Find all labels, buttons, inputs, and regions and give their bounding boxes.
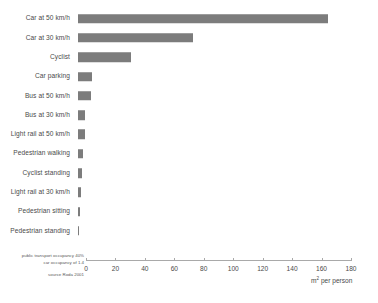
x-axis-tick [115, 258, 116, 262]
x-axis-tick-label: 20 [112, 266, 119, 273]
x-axis-tick-label: 60 [171, 266, 178, 273]
bar-track [78, 48, 378, 67]
bar-row: Pedestrian sitting [0, 202, 378, 221]
bar-category-label: Pedestrian standing [0, 228, 78, 235]
x-axis-tick [145, 258, 146, 262]
x-axis-tick-label: 160 [316, 266, 327, 273]
footnote-assumption-line-1: public transport occupancy 40% [4, 253, 84, 260]
bar [78, 72, 92, 82]
x-axis-tick [174, 258, 175, 262]
bar-category-label: Bus at 50 km/h [0, 93, 78, 100]
x-axis-tick-label: 80 [200, 266, 207, 273]
x-axis-tick [86, 258, 87, 262]
bar-row: Pedestrian standing [0, 221, 378, 240]
bar-category-label: Cyclist [0, 54, 78, 61]
bar-track [78, 105, 378, 124]
bar-category-label: Car at 30 km/h [0, 35, 78, 42]
bar-track [78, 86, 378, 105]
bar [78, 14, 328, 24]
bar-row: Bus at 50 km/h [0, 86, 378, 105]
bar [78, 91, 91, 101]
bar-track [78, 9, 378, 28]
bar-row: Light rail at 30 km/h [0, 183, 378, 202]
x-axis-tick [204, 258, 205, 262]
bar-chart: Car at 50 km/hCar at 30 km/hCyclistCar p… [0, 0, 378, 303]
x-axis-tick-label: 180 [345, 266, 356, 273]
bar-row: Car at 50 km/h [0, 9, 378, 28]
x-axis-tick-label: 100 [228, 266, 239, 273]
bar [78, 33, 193, 43]
bar-category-label: Light rail at 50 km/h [0, 131, 78, 138]
bar-row: Cyclist standing [0, 163, 378, 182]
footnote-source: source Roda 2001 [4, 273, 84, 277]
bar-category-label: Cyclist standing [0, 170, 78, 177]
x-axis-tick-label: 40 [141, 266, 148, 273]
bar [78, 149, 83, 159]
x-axis-tick-label: 0 [84, 266, 88, 273]
x-axis-tick [351, 258, 352, 262]
bar-track [78, 144, 378, 163]
bar-row: Pedestrian walking [0, 144, 378, 163]
bar-category-label: Car parking [0, 73, 78, 80]
x-axis-tick-label: 120 [257, 266, 268, 273]
bar [78, 52, 131, 62]
bar-track [78, 163, 378, 182]
x-axis: 020406080100120140160180 [86, 260, 351, 261]
bar [78, 226, 79, 236]
bar-row: Car at 30 km/h [0, 28, 378, 47]
x-axis-tick [322, 258, 323, 262]
bar-category-label: Light rail at 30 km/h [0, 189, 78, 196]
bar [78, 207, 80, 217]
x-axis-unit-suffix: per person [319, 277, 352, 284]
bar [78, 110, 85, 120]
bar-track [78, 202, 378, 221]
bar [78, 168, 82, 178]
bar-rows: Car at 50 km/hCar at 30 km/hCyclistCar p… [0, 9, 378, 241]
bar-track [78, 28, 378, 47]
bar-track [78, 67, 378, 86]
bar-track [78, 125, 378, 144]
bar-category-label: Pedestrian walking [0, 150, 78, 157]
bar-row: Car parking [0, 67, 378, 86]
bar-category-label: Car at 50 km/h [0, 15, 78, 22]
x-axis-tick [233, 258, 234, 262]
x-axis-tick-label: 140 [287, 266, 298, 273]
bar [78, 188, 81, 198]
bar-track [78, 221, 378, 240]
x-axis-tick [263, 258, 264, 262]
footnote-assumptions: public transport occupancy 40% car occup… [4, 253, 84, 267]
bar [78, 130, 85, 140]
bar-row: Bus at 30 km/h [0, 105, 378, 124]
bar-track [78, 183, 378, 202]
bar-category-label: Pedestrian sitting [0, 208, 78, 215]
x-axis-tick [292, 258, 293, 262]
footnote-assumption-line-2: car occupancy of 1.4 [4, 260, 84, 267]
bar-row: Cyclist [0, 48, 378, 67]
bar-row: Light rail at 50 km/h [0, 125, 378, 144]
x-axis-unit-label: m2 per person [311, 277, 352, 285]
bar-category-label: Bus at 30 km/h [0, 112, 78, 119]
